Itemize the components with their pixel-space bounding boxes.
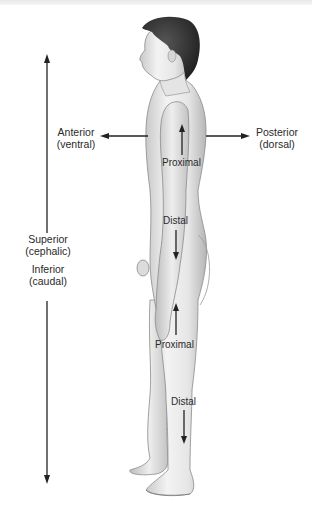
label-posterior: Posterior (dorsal): [252, 126, 302, 150]
label-arm-distal: Distal: [163, 215, 188, 226]
label-arm-proximal: Proximal: [162, 157, 201, 168]
ear: [168, 50, 176, 62]
superior-arrowhead: [44, 54, 50, 63]
label-superior: Superior (cephalic): [20, 233, 76, 257]
label-anterior: Anterior (ventral): [52, 126, 100, 150]
genitals: [137, 260, 149, 276]
label-leg-proximal: Proximal: [155, 339, 194, 350]
inferior-arrowhead: [44, 475, 50, 484]
label-leg-distal: Distal: [171, 396, 196, 407]
label-inferior: Inferior (caudal): [20, 263, 76, 287]
